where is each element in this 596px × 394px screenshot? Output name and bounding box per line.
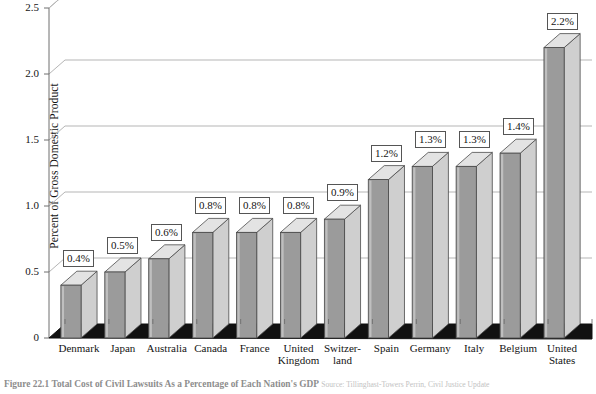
bar-column (368, 166, 404, 338)
bar-column (412, 152, 448, 338)
data-label: 0.8% (195, 197, 226, 214)
data-label: 1.4% (503, 118, 534, 135)
figure-caption: Figure 22.1 Total Cost of Civil Lawsuits… (4, 379, 596, 394)
data-label: 0.9% (327, 184, 358, 201)
data-label: 0.4% (63, 250, 94, 267)
gridline-depth-connector (49, 192, 65, 206)
caption-title: Total Cost of Civil Lawsuits As a Percen… (51, 379, 318, 389)
data-label: 1.2% (371, 145, 402, 162)
data-label: 1.3% (459, 131, 490, 148)
data-label: 0.8% (239, 197, 270, 214)
bar-column (149, 245, 185, 338)
caption-figure-number: Figure 22.1 (4, 379, 49, 389)
bar-column (456, 152, 492, 338)
bar-column (61, 271, 97, 338)
figure-container: Percent of Gross Domestic Product 00.51.… (0, 0, 596, 394)
bar-column (324, 205, 360, 338)
data-label: 0.6% (151, 224, 182, 241)
bar-column (105, 258, 141, 338)
bar-column (544, 34, 580, 338)
data-label: 2.2% (547, 13, 578, 30)
data-label: 0.8% (283, 197, 314, 214)
bar-column (280, 218, 316, 338)
bar-column (500, 139, 536, 338)
gridline-depth-connector (49, 60, 65, 74)
plot-top-border (49, 0, 592, 8)
caption-source: Source: Tillinghast-Towers Perrin, Civil… (321, 380, 489, 389)
gridline-depth-connector (49, 126, 65, 140)
data-label: 1.3% (415, 131, 446, 148)
bar-column (193, 218, 229, 338)
data-label: 0.5% (107, 237, 138, 254)
bar-column (237, 218, 273, 338)
x-axis-category-label: United States (532, 342, 592, 367)
